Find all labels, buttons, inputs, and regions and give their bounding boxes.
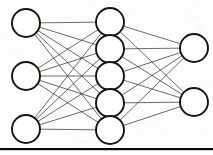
- scan-speckle: [193, 19, 200, 20]
- scan-speckle: [181, 86, 183, 88]
- scan-speckle: [152, 122, 157, 123]
- scan-speckle: [133, 13, 136, 15]
- scan-speckle: [182, 14, 188, 15]
- scan-speckle: [93, 113, 96, 114]
- node-hidden-h5: [96, 116, 124, 144]
- scan-speckle: [133, 25, 139, 27]
- node-output-o1: [180, 34, 208, 62]
- scan-speckle: [41, 12, 43, 13]
- node-input-i1: [12, 9, 40, 37]
- scan-speckle: [30, 50, 32, 51]
- scan-speckle: [69, 134, 76, 135]
- scan-speckle: [174, 51, 176, 53]
- node-hidden-h2: [96, 35, 124, 63]
- neural-network-figure: [0, 0, 213, 155]
- bottom-rule: [0, 148, 213, 150]
- scan-speckle: [147, 120, 150, 121]
- scan-speckle: [126, 55, 134, 56]
- scan-speckle: [78, 146, 85, 147]
- scan-speckle: [148, 123, 150, 124]
- scan-speckle: [19, 39, 22, 40]
- node-input-i3: [12, 115, 40, 143]
- scan-speckle: [136, 39, 142, 41]
- scan-speckle: [134, 89, 140, 90]
- scan-speckle: [4, 11, 6, 12]
- scan-speckle: [131, 54, 137, 55]
- scan-speckle: [143, 66, 148, 68]
- scan-speckle: [196, 6, 198, 8]
- scan-speckle: [45, 38, 50, 39]
- scan-speckle: [174, 30, 178, 31]
- scan-speckle: [201, 128, 207, 129]
- scan-speckle: [211, 111, 213, 112]
- hidden-layer-nodes: [96, 8, 124, 144]
- scan-speckle: [58, 17, 62, 18]
- scan-speckle: [90, 73, 95, 75]
- scan-speckle: [198, 30, 202, 32]
- scan-speckle: [190, 17, 196, 19]
- scan-speckle: [70, 48, 71, 49]
- scan-speckle: [196, 28, 202, 29]
- scan-speckle: [3, 145, 10, 147]
- scan-speckle: [193, 25, 200, 26]
- scan-speckle: [94, 1, 96, 2]
- network-diagram-canvas: [0, 0, 213, 155]
- node-hidden-h1: [96, 8, 124, 36]
- scan-speckle: [83, 63, 86, 65]
- scan-speckle: [161, 128, 167, 129]
- scan-speckle: [6, 35, 11, 37]
- scan-speckle: [11, 49, 19, 51]
- scan-speckle: [202, 4, 206, 5]
- input-layer-nodes: [12, 9, 40, 143]
- node-output-o2: [180, 88, 208, 116]
- scan-speckle: [184, 86, 188, 88]
- node-hidden-h4: [96, 89, 124, 117]
- scan-speckle: [193, 2, 195, 3]
- scan-speckle: [84, 68, 88, 69]
- scan-speckle: [82, 141, 90, 143]
- node-hidden-h3: [96, 62, 124, 90]
- scan-speckle: [140, 10, 143, 11]
- scan-speckle: [135, 95, 140, 97]
- scan-speckle: [77, 142, 79, 144]
- node-input-i2: [12, 62, 40, 90]
- scan-speckle: [137, 64, 142, 65]
- scan-speckle: [205, 80, 211, 81]
- scan-speckle: [140, 133, 143, 134]
- scan-speckle: [45, 126, 51, 127]
- scan-speckle: [185, 82, 187, 84]
